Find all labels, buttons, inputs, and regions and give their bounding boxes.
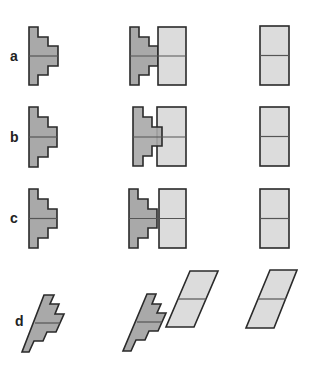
figure-canvas: a b c	[0, 0, 322, 367]
rectangle-b	[260, 107, 289, 166]
stepped-shape-b	[29, 107, 57, 167]
stepped-shape-c	[29, 189, 57, 248]
skewed-stepped-shape-d	[22, 295, 64, 352]
row-label-b: b	[10, 129, 19, 145]
row-c: c	[10, 189, 289, 248]
combined-shape-b	[133, 107, 186, 166]
row-d: d	[15, 270, 297, 352]
combined-shape-c	[129, 189, 186, 248]
stepped-shape-a	[29, 27, 58, 85]
row-a: a	[10, 26, 289, 85]
row-b: b	[10, 107, 289, 167]
combined-shape-a	[130, 27, 186, 85]
combined-shape-d	[123, 271, 218, 351]
row-label-d: d	[15, 313, 24, 329]
rectangle-a	[260, 26, 289, 85]
parallelogram-d	[246, 270, 297, 328]
row-label-a: a	[10, 48, 18, 64]
rectangle-c	[260, 189, 289, 248]
row-label-c: c	[10, 210, 18, 226]
